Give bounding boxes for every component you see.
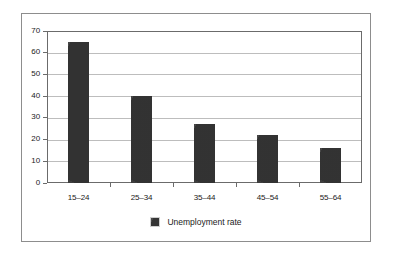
y-axis-tick-mark [43, 161, 47, 162]
y-axis-tick-label: 30 [23, 113, 40, 121]
y-axis-tick-mark [43, 74, 47, 75]
y-axis-tick-mark [43, 31, 47, 32]
y-axis-tick-label: 40 [23, 92, 40, 100]
gridline [48, 96, 361, 97]
gridline [48, 53, 361, 54]
y-axis-tick-mark [43, 139, 47, 140]
chart-figure: 01020304050607015–2425–3435–4445–5455–64… [0, 0, 394, 256]
gridline [48, 74, 361, 75]
y-axis-tick-mark [43, 117, 47, 118]
x-axis-tick-label: 35–44 [173, 193, 236, 202]
y-axis-tick-label: 10 [23, 157, 40, 165]
y-axis-tick-label: 0 [23, 179, 40, 187]
bar [131, 96, 152, 183]
y-axis-tick-mark [43, 96, 47, 97]
bar [194, 124, 215, 183]
x-axis-tick-label: 55–64 [299, 193, 362, 202]
bar [68, 42, 89, 183]
y-axis-tick-label: 70 [23, 27, 40, 35]
chart-legend: Unemployment rate [21, 215, 371, 229]
gridline [48, 118, 361, 119]
legend-color-swatch [150, 217, 160, 227]
plot-wrapper: 01020304050607015–2425–3435–4445–5455–64 [21, 13, 371, 242]
y-axis-tick-label: 50 [23, 70, 40, 78]
y-axis-tick-mark [43, 183, 47, 184]
y-axis-tick-mark [43, 52, 47, 53]
y-axis-tick-label: 60 [23, 48, 40, 56]
x-axis-tick-mark [299, 183, 300, 187]
x-axis-tick-mark [173, 183, 174, 187]
bar [320, 148, 341, 183]
x-axis-tick-mark [110, 183, 111, 187]
x-axis-tick-mark [236, 183, 237, 187]
legend-label: Unemployment rate [167, 217, 241, 227]
x-axis-tick-label: 25–34 [110, 193, 173, 202]
bar [257, 135, 278, 183]
y-axis-tick-label: 20 [23, 135, 40, 143]
x-axis-tick-label: 45–54 [236, 193, 299, 202]
x-axis-tick-label: 15–24 [47, 193, 110, 202]
